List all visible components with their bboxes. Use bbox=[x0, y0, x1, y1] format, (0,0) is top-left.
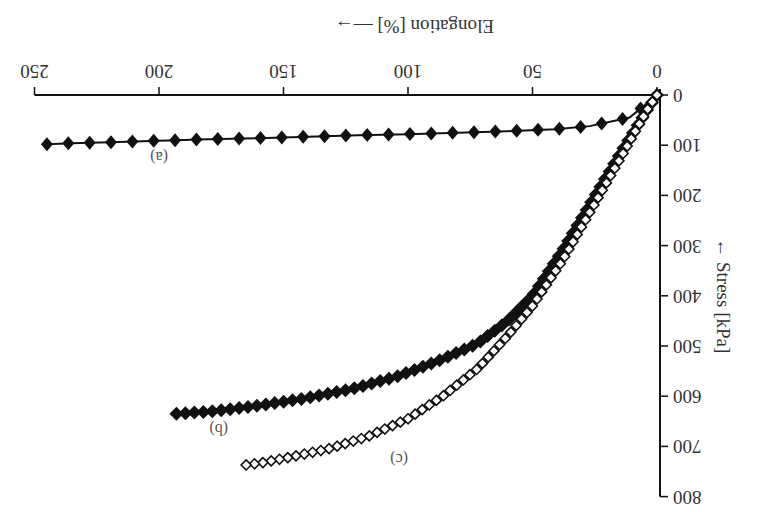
marker-filled-diamond bbox=[212, 132, 224, 146]
marker-filled-diamond bbox=[190, 133, 202, 147]
y-tick-label: 800 bbox=[673, 487, 702, 508]
series-c bbox=[241, 90, 662, 470]
marker-open-diamond bbox=[274, 454, 284, 464]
y-tick-label: 700 bbox=[673, 436, 702, 457]
marker-filled-diamond bbox=[511, 124, 523, 138]
marker-open-diamond bbox=[241, 460, 251, 470]
x-tick-label: 100 bbox=[394, 61, 423, 82]
marker-filled-diamond bbox=[447, 126, 459, 140]
marker-filled-diamond bbox=[41, 137, 53, 151]
marker-filled-diamond bbox=[553, 122, 565, 136]
y-tick-label: 400 bbox=[673, 286, 702, 307]
marker-filled-diamond bbox=[62, 136, 74, 150]
series-layer bbox=[41, 88, 664, 470]
marker-filled-diamond bbox=[297, 130, 309, 144]
marker-filled-diamond bbox=[169, 133, 181, 147]
marker-filled-diamond bbox=[361, 128, 373, 142]
marker-open-diamond bbox=[291, 451, 301, 461]
marker-open-diamond bbox=[266, 456, 276, 466]
y-tick-label: 0 bbox=[673, 85, 683, 106]
series-a bbox=[41, 88, 663, 151]
curve-label-c: (c) bbox=[390, 450, 408, 468]
x-axis-title: Elongation [%] —→ bbox=[335, 16, 494, 37]
marker-filled-diamond bbox=[489, 125, 501, 139]
curve-label-a: (a) bbox=[150, 148, 168, 166]
marker-open-diamond bbox=[316, 446, 326, 456]
marker-filled-diamond bbox=[617, 112, 629, 126]
marker-filled-diamond bbox=[468, 125, 480, 139]
marker-filled-diamond bbox=[575, 120, 587, 134]
marker-filled-diamond bbox=[319, 129, 331, 143]
x-tick-label: 0 bbox=[652, 61, 662, 82]
marker-filled-diamond bbox=[404, 127, 416, 141]
y-tick-label: 500 bbox=[673, 336, 702, 357]
marker-filled-diamond bbox=[148, 134, 160, 148]
marker-filled-diamond bbox=[596, 117, 608, 131]
marker-filled-diamond bbox=[84, 136, 96, 150]
x-tick-label: 50 bbox=[523, 61, 542, 82]
marker-filled-diamond bbox=[340, 129, 352, 143]
marker-filled-diamond bbox=[425, 126, 437, 140]
stress-elongation-chart: 0501001502002500100200300400500600700800… bbox=[0, 0, 764, 512]
y-tick-label: 300 bbox=[673, 236, 702, 257]
y-axis-title: ← Stress [kPa] bbox=[713, 238, 734, 353]
x-tick-label: 200 bbox=[145, 61, 174, 82]
marker-filled-square bbox=[169, 407, 183, 421]
marker-filled-diamond bbox=[383, 128, 395, 142]
marker-filled-diamond bbox=[532, 123, 544, 137]
marker-filled-diamond bbox=[233, 132, 245, 146]
x-tick-label: 150 bbox=[269, 61, 298, 82]
marker-open-diamond bbox=[299, 449, 309, 459]
marker-open-diamond bbox=[308, 447, 318, 457]
marker-filled-diamond bbox=[105, 135, 117, 149]
y-tick-label: 600 bbox=[673, 386, 702, 407]
curve-label-b: (b) bbox=[209, 420, 228, 438]
marker-filled-diamond bbox=[126, 134, 138, 148]
chart-stage: 0501001502002500100200300400500600700800… bbox=[0, 0, 764, 512]
y-tick-label: 100 bbox=[673, 135, 702, 156]
y-tick-label: 200 bbox=[673, 185, 702, 206]
marker-open-diamond bbox=[283, 453, 293, 463]
x-tick-label: 250 bbox=[20, 61, 49, 82]
marker-filled-diamond bbox=[276, 130, 288, 144]
marker-filled-diamond bbox=[254, 131, 266, 145]
